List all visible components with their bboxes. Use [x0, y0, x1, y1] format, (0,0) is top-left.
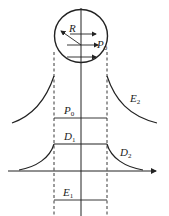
e2-curve-left	[12, 76, 54, 123]
label-d2: D2	[119, 146, 132, 160]
label-r: R	[68, 22, 76, 34]
label-d1: D1	[63, 130, 76, 144]
label-p0-arrow: P0	[96, 38, 108, 52]
d2-curve-left	[19, 144, 54, 170]
diagram-canvas: R P0 E2 P0 D1 D2 E1	[0, 0, 169, 216]
label-e2: E2	[129, 92, 141, 106]
label-p0-line: P0	[63, 104, 75, 118]
label-e1: E1	[62, 186, 74, 200]
